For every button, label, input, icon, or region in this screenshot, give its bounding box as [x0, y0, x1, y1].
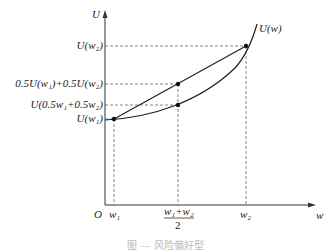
- figure-caption: 图 — 风险偏好型: [0, 237, 331, 252]
- y-axis-label: U: [92, 8, 100, 20]
- origin-label: O: [94, 208, 102, 220]
- x-tick-w1: w₁: [109, 208, 120, 220]
- y-tick-u-w1: U(w₁): [77, 112, 103, 124]
- utility-curve: [105, 24, 257, 120]
- x-tick-w2: w₂: [240, 208, 251, 220]
- x-axis-label: w: [316, 209, 323, 221]
- y-axis-arrow-icon: [103, 10, 108, 18]
- x-tick-mean-denominator: 2: [175, 219, 181, 231]
- chord-line: [114, 46, 246, 119]
- y-tick-expected-utility: 0.5U(w₁)+0.5U(w₂): [15, 77, 103, 89]
- vertical-guides: [114, 46, 246, 205]
- x-axis-arrow-icon: [308, 203, 316, 208]
- x-tick-mean-numerator: w₁+w₂: [164, 205, 194, 217]
- horizontal-guides: [105, 46, 246, 119]
- curve-label: U(w): [259, 22, 282, 34]
- y-tick-utility-of-mean: U(0.5w₁+0.5w₂): [30, 98, 103, 110]
- y-tick-u-w2: U(w₂): [77, 39, 103, 51]
